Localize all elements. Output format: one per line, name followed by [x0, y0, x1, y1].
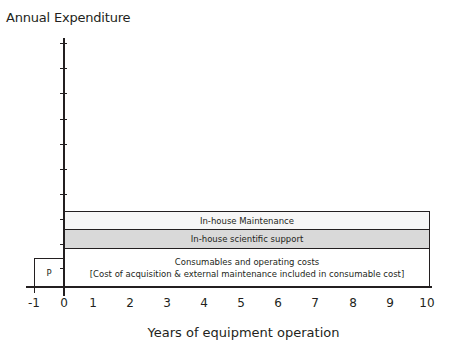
band-maintenance: In-house Maintenance [64, 211, 430, 230]
consumables-label: Consumables and operating costs [175, 256, 319, 268]
x-tick-label: -1 [24, 296, 44, 310]
y-tick [60, 93, 67, 94]
p-label: P [46, 268, 51, 278]
chart-title: Annual Expenditure [6, 10, 130, 25]
x-tick-label: 5 [231, 296, 251, 310]
scientific-label: In-house scientific support [191, 234, 303, 244]
x-tick-label: 2 [120, 296, 140, 310]
x-axis-label: Years of equipment operation [0, 325, 457, 340]
x-tick [34, 286, 35, 293]
x-tick-label: 7 [305, 296, 325, 310]
y-tick [60, 194, 67, 195]
p-box: P [34, 258, 64, 287]
maintenance-label: In-house Maintenance [200, 216, 294, 226]
x-tick-label: 0 [54, 296, 74, 310]
y-tick [60, 144, 67, 145]
x-tick-label: 9 [380, 296, 400, 310]
y-tick [60, 68, 67, 69]
y-tick [60, 43, 67, 44]
consumables-note: [Cost of acquisition & external maintena… [90, 268, 405, 280]
x-tick-label: 8 [343, 296, 363, 310]
y-tick [60, 119, 67, 120]
x-tick-label: 1 [83, 296, 103, 310]
band-consumables: Consumables and operating costs [Cost of… [64, 248, 430, 287]
x-tick-label: 4 [194, 296, 214, 310]
band-scientific-support: In-house scientific support [64, 229, 430, 249]
y-tick [60, 169, 67, 170]
x-tick-label: 10 [417, 296, 437, 310]
x-tick-label: 6 [268, 296, 288, 310]
x-tick-label: 3 [157, 296, 177, 310]
